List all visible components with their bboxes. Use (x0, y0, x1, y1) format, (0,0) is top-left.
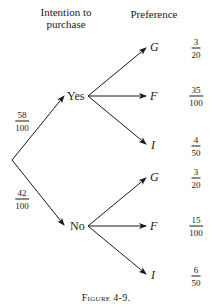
prob-no: 42 100 (15, 188, 29, 211)
edge-yes-g (88, 48, 146, 96)
prob-den: 100 (189, 227, 203, 238)
prob-num: 35 (191, 85, 202, 96)
prob-den: 100 (189, 97, 203, 108)
leaf-yes-g: G (150, 40, 159, 55)
prob-den: 20 (192, 179, 201, 190)
prob-no-f: 15 100 (189, 215, 203, 238)
prob-den: 50 (192, 277, 201, 288)
prob-yes-f: 35 100 (189, 85, 203, 108)
leaf-no-f: F (150, 219, 157, 234)
tree-edges (0, 0, 212, 307)
edge-no-i (88, 226, 146, 274)
prob-num: 3 (193, 167, 200, 178)
prob-yes-i: 4 50 (192, 135, 201, 158)
figure-caption: Figure 4-9. (0, 292, 212, 303)
edge-no-g (88, 178, 146, 226)
leaf-yes-f: F (150, 89, 157, 104)
leaf-yes-i: I (151, 138, 155, 153)
header-intention-line1: Intention to (28, 6, 104, 18)
edge-yes-i (88, 96, 146, 144)
header-preference: Preference (124, 8, 184, 20)
prob-no-num: 42 (17, 188, 28, 199)
prob-no-den: 100 (15, 200, 29, 211)
prob-yes-num: 58 (17, 110, 28, 121)
prob-den: 20 (192, 49, 201, 60)
prob-num: 6 (193, 265, 200, 276)
prob-num: 3 (193, 37, 200, 48)
header-intention: Intention to purchase (28, 6, 104, 30)
node-yes: Yes (67, 89, 84, 104)
prob-num: 4 (193, 135, 200, 146)
prob-num: 15 (191, 215, 202, 226)
prob-no-g: 3 20 (192, 167, 201, 190)
prob-yes: 58 100 (15, 110, 29, 133)
prob-den: 50 (192, 147, 201, 158)
leaf-no-g: G (150, 170, 159, 185)
node-no: No (70, 219, 85, 234)
prob-yes-den: 100 (15, 122, 29, 133)
prob-yes-g: 3 20 (192, 37, 201, 60)
prob-no-i: 6 50 (192, 265, 201, 288)
header-intention-line2: purchase (28, 18, 104, 30)
leaf-no-i: I (151, 268, 155, 283)
